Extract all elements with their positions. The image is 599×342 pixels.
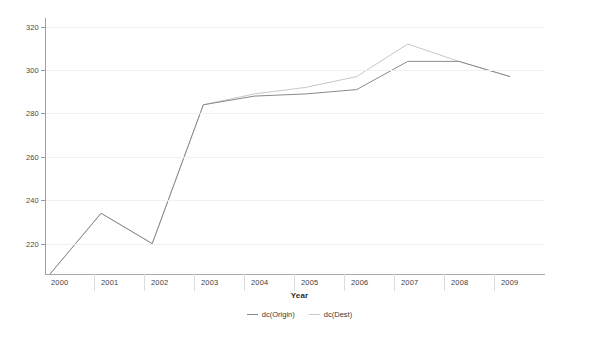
x-tick-cell: 2004	[245, 274, 295, 291]
chart-legend: dc(Origin)dc(Dest)	[0, 310, 599, 319]
x-tick-label: 2003	[201, 278, 219, 287]
x-axis-title: Year	[0, 291, 599, 300]
gridline	[45, 70, 545, 71]
legend-swatch-icon	[309, 314, 320, 315]
line-chart: 220240260280300320 200020012002200320042…	[0, 0, 599, 342]
x-axis-ticks: 2000200120022003200420052006200720082009	[45, 274, 545, 291]
x-tick-label: 2000	[51, 278, 69, 287]
x-tick-cell: 2002	[145, 274, 195, 291]
x-tick-label: 2007	[401, 278, 419, 287]
y-tick-label: 220	[26, 239, 39, 248]
y-tick-label: 320	[26, 22, 39, 31]
x-tick-cell: 2006	[345, 274, 395, 291]
x-tick-cell: 2000	[45, 274, 95, 291]
plot-area: 220240260280300320	[45, 18, 545, 274]
legend-swatch-icon	[247, 314, 258, 315]
x-tick-cell: 2005	[295, 274, 345, 291]
series-layer	[45, 18, 545, 274]
gridline	[45, 157, 545, 158]
gridline	[45, 113, 545, 114]
y-axis-line	[45, 18, 46, 275]
series-line	[50, 44, 510, 274]
x-tick-cell: 2009	[495, 274, 545, 291]
legend-label: dc(Dest)	[324, 310, 352, 319]
x-tick-label: 2005	[301, 278, 319, 287]
x-tick-cell: 2003	[195, 274, 245, 291]
x-tick-label: 2009	[501, 278, 519, 287]
gridline	[45, 27, 545, 28]
x-tick-label: 2002	[151, 278, 169, 287]
y-tick-label: 300	[26, 66, 39, 75]
x-tick-cell: 2008	[445, 274, 495, 291]
x-tick-cell: 2007	[395, 274, 445, 291]
x-tick-label: 2006	[351, 278, 369, 287]
y-tick-label: 280	[26, 109, 39, 118]
gridline	[45, 200, 545, 201]
x-tick-label: 2001	[101, 278, 119, 287]
y-tick-label: 240	[26, 196, 39, 205]
x-tick-cell: 2001	[95, 274, 145, 291]
x-tick-label: 2004	[251, 278, 269, 287]
series-line	[50, 61, 510, 274]
y-tick-label: 260	[26, 152, 39, 161]
legend-item[interactable]: dc(Origin)	[247, 310, 295, 319]
legend-item[interactable]: dc(Dest)	[309, 310, 352, 319]
legend-label: dc(Origin)	[262, 310, 295, 319]
gridline	[45, 244, 545, 245]
x-tick-label: 2008	[451, 278, 469, 287]
